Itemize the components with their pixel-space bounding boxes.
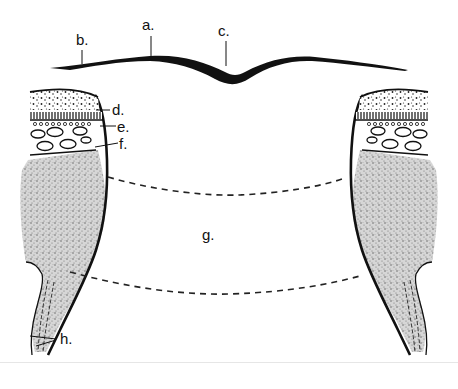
right-body	[351, 89, 438, 355]
upper-dashed-boundary	[108, 177, 345, 195]
left-body	[20, 89, 118, 355]
top-membrane	[50, 36, 408, 84]
label-h: h.	[60, 331, 73, 346]
label-a: a.	[142, 17, 155, 32]
label-d: d.	[112, 102, 125, 117]
label-g: g.	[202, 227, 215, 242]
lower-dashed-boundary	[70, 272, 360, 294]
bottom-rule	[0, 362, 458, 363]
label-f: f.	[119, 136, 127, 151]
label-b: b.	[76, 32, 89, 47]
label-c: c.	[218, 23, 230, 38]
label-e: e.	[117, 119, 130, 134]
